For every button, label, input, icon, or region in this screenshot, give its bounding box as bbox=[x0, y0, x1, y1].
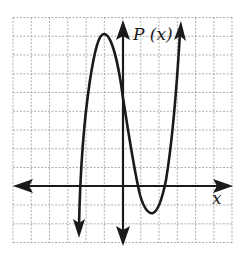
x-axis-label: x bbox=[212, 188, 222, 208]
y-axis-label: P (x) bbox=[132, 24, 173, 44]
polynomial-graph: P (x) x bbox=[0, 0, 236, 255]
polynomial-curve bbox=[79, 33, 180, 226]
